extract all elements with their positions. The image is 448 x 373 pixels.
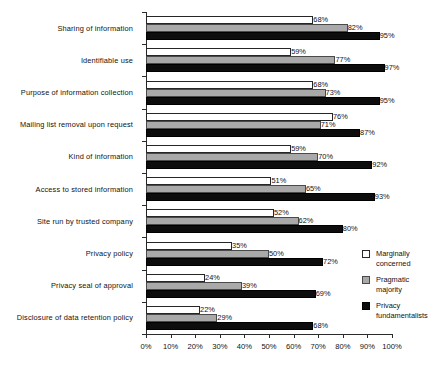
bar-group: 22%29%68% (146, 306, 392, 330)
bar-chart: Sharing of informationIdentifiable usePu… (0, 0, 448, 373)
bar: 59% (146, 48, 291, 56)
bar-value-label: 92% (372, 161, 387, 169)
bar-value-label: 39% (242, 282, 257, 290)
bar-value-label: 22% (200, 306, 215, 314)
category-label: Disclosure of data retention policy (0, 313, 133, 322)
category-label: Identifiable use (0, 56, 133, 65)
legend-swatch-icon (362, 302, 370, 310)
bar: 70% (146, 153, 318, 161)
bar: 50% (146, 250, 269, 258)
legend-item[interactable]: Pragmatic majority (362, 275, 448, 294)
y-tick-mark (142, 205, 146, 206)
x-tick-mark (244, 334, 245, 338)
bar-value-label: 35% (232, 242, 247, 250)
x-tick-mark (269, 334, 270, 338)
y-tick-mark (142, 270, 146, 271)
x-tick-mark (294, 334, 295, 338)
bar-value-label: 95% (380, 32, 395, 40)
y-tick-mark (142, 141, 146, 142)
bar: 92% (146, 161, 372, 169)
bar-value-label: 65% (306, 185, 321, 193)
bar: 68% (146, 322, 313, 330)
category-label: Access to stored information (0, 185, 133, 194)
x-tick-mark (146, 334, 147, 338)
category-label: Kind of information (0, 152, 133, 161)
legend-swatch-icon (362, 276, 370, 284)
x-tick-label: 60% (281, 342, 307, 351)
y-tick-mark (142, 334, 146, 335)
x-tick-label: 90% (354, 342, 380, 351)
bar: 71% (146, 121, 321, 129)
bar-value-label: 93% (375, 193, 390, 201)
x-tick-label: 70% (305, 342, 331, 351)
legend-label: Privacy fundamentalists (376, 301, 448, 320)
y-tick-mark (142, 109, 146, 110)
bar: 95% (146, 32, 380, 40)
bar-value-label: 24% (205, 274, 220, 282)
bar: 95% (146, 97, 380, 105)
bar: 87% (146, 129, 360, 137)
bar: 68% (146, 81, 313, 89)
bar-value-label: 97% (385, 64, 400, 72)
legend-item[interactable]: Privacy fundamentalists (362, 301, 448, 320)
bar-value-label: 70% (318, 153, 333, 161)
bar: 68% (146, 16, 313, 24)
bar-group: 68%73%95% (146, 81, 392, 105)
bar-value-label: 29% (217, 314, 232, 322)
x-tick-label: 10% (158, 342, 184, 351)
bar: 39% (146, 282, 242, 290)
bar: 62% (146, 217, 299, 225)
bar-value-label: 87% (360, 129, 375, 137)
x-tick-mark (392, 334, 393, 338)
bar-group: 35%50%72% (146, 242, 392, 266)
plot-area: 0%10%20%30%40%50%60%70%80%90%100% 68%82%… (146, 12, 392, 334)
bar-value-label: 68% (313, 16, 328, 24)
category-axis-labels: Sharing of informationIdentifiable usePu… (0, 12, 138, 334)
bar-group: 76%71%87% (146, 113, 392, 137)
bar-value-label: 52% (274, 209, 289, 217)
bar-group: 51%65%93% (146, 177, 392, 201)
bar-value-label: 62% (299, 217, 314, 225)
bar: 73% (146, 89, 326, 97)
bar: 52% (146, 209, 274, 217)
x-tick-label: 40% (231, 342, 257, 351)
x-tick-label: 30% (207, 342, 233, 351)
x-tick-mark (195, 334, 196, 338)
bar: 69% (146, 290, 316, 298)
bar-value-label: 68% (313, 322, 328, 330)
x-tick-mark (367, 334, 368, 338)
bar: 59% (146, 145, 291, 153)
x-tick-label: 100% (379, 342, 405, 351)
bar: 22% (146, 306, 200, 314)
bar-value-label: 77% (335, 56, 350, 64)
bar: 29% (146, 314, 217, 322)
bar: 76% (146, 113, 333, 121)
y-tick-mark (142, 237, 146, 238)
y-tick-mark (142, 76, 146, 77)
category-label: Site run by trusted company (0, 217, 133, 226)
bar: 72% (146, 258, 323, 266)
bar-value-label: 80% (343, 225, 358, 233)
y-tick-mark (142, 12, 146, 13)
x-tick-label: 20% (182, 342, 208, 351)
bar-value-label: 69% (316, 290, 331, 298)
x-tick-mark (318, 334, 319, 338)
x-tick-mark (343, 334, 344, 338)
legend-swatch-icon (362, 250, 370, 258)
legend-item[interactable]: Marginally concerned (362, 249, 448, 268)
bar-value-label: 71% (321, 121, 336, 129)
category-label: Privacy policy (0, 249, 133, 258)
bar-value-label: 50% (269, 250, 284, 258)
bar: 93% (146, 193, 375, 201)
bar-group: 59%77%97% (146, 48, 392, 72)
bar: 97% (146, 64, 385, 72)
bar: 24% (146, 274, 205, 282)
legend-label: Marginally concerned (376, 249, 448, 268)
category-label: Privacy seal of approval (0, 281, 133, 290)
bar-value-label: 59% (291, 145, 306, 153)
bar-group: 59%70%92% (146, 145, 392, 169)
bar-value-label: 72% (323, 258, 338, 266)
bar-group: 68%82%95% (146, 16, 392, 40)
bar-group: 24%39%69% (146, 274, 392, 298)
bar-value-label: 51% (271, 177, 286, 185)
